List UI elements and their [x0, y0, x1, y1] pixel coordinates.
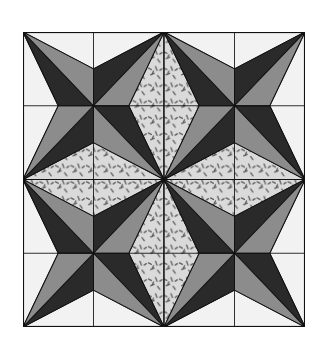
quilt-block — [23, 32, 305, 327]
quilt-drawing — [23, 32, 305, 327]
